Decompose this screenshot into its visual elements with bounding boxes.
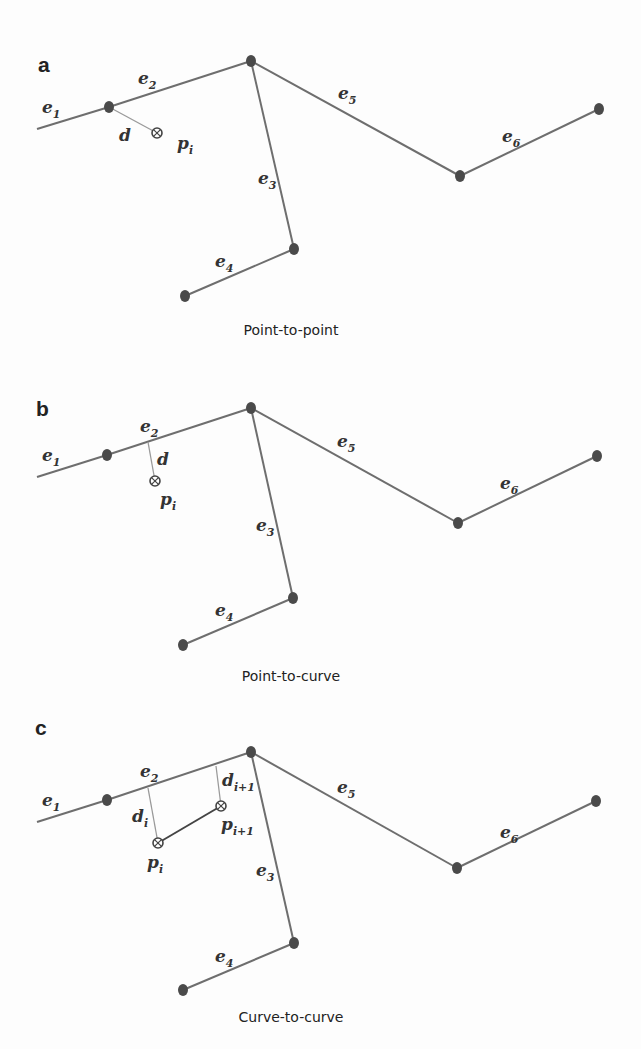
road-node-icon — [452, 862, 462, 874]
panel-label: a — [38, 53, 50, 76]
trajectory-segment — [158, 806, 221, 843]
road-edge-e2 — [107, 408, 251, 455]
road-node-icon — [289, 937, 299, 949]
road-edge-e6 — [457, 801, 596, 868]
gps-point-label: pi — [160, 489, 176, 513]
panel-caption: Point-to-curve — [242, 668, 340, 684]
diagram-canvas: ae1e2e3e4e5e6dpiPoint-to-pointbe1e2e3e4e… — [0, 0, 641, 1049]
panel-b: be1e2e3e4e5e6dpiPoint-to-curve — [36, 397, 602, 684]
panel-label: b — [36, 397, 49, 420]
edge-label: e1 — [42, 790, 60, 814]
road-edge-e6 — [460, 109, 599, 176]
road-node-icon — [594, 103, 604, 115]
road-node-icon — [102, 794, 112, 806]
edge-label: e6 — [500, 473, 519, 497]
road-node-icon — [591, 795, 601, 807]
road-node-icon — [178, 639, 188, 651]
edge-label: e3 — [256, 515, 275, 539]
road-edge-e2 — [109, 61, 251, 107]
road-edge-e4 — [183, 943, 294, 990]
distance-label: di — [132, 806, 148, 830]
distance-label: d — [157, 449, 169, 469]
road-node-icon — [288, 592, 298, 604]
edge-label: e5 — [338, 83, 356, 107]
road-node-icon — [592, 450, 602, 462]
road-edge-e3 — [251, 752, 294, 943]
panel-c: ce1e2e3e4e5e6didi+1pipi+1Curve-to-curve — [35, 716, 601, 1025]
panel-a: ae1e2e3e4e5e6dpiPoint-to-point — [37, 53, 604, 338]
road-node-icon — [246, 402, 256, 414]
edge-label: e2 — [140, 761, 159, 785]
map-matching-figure: ae1e2e3e4e5e6dpiPoint-to-pointbe1e2e3e4e… — [0, 0, 641, 1049]
road-node-icon — [178, 984, 188, 996]
road-edge-e5 — [251, 408, 458, 523]
road-node-icon — [455, 170, 465, 182]
gps-point-label: pi — [147, 852, 163, 876]
road-node-icon — [102, 449, 112, 461]
road-edge-e6 — [458, 456, 597, 523]
road-node-icon — [104, 101, 114, 113]
edge-label: e4 — [215, 251, 233, 275]
edge-label: e1 — [42, 445, 60, 469]
panel-caption: Point-to-point — [244, 322, 339, 338]
edge-label: e3 — [258, 168, 277, 192]
distance-label: di+1 — [222, 770, 255, 794]
edge-label: e3 — [256, 860, 275, 884]
gps-point-label: pi+1 — [221, 814, 254, 838]
edge-label: e6 — [502, 126, 521, 150]
distance-line — [216, 766, 221, 806]
edge-label: e5 — [337, 777, 355, 801]
panel-label: c — [35, 716, 47, 739]
road-node-icon — [180, 290, 190, 302]
road-edge-e4 — [185, 249, 294, 296]
road-node-icon — [453, 517, 463, 529]
road-edge-e5 — [251, 752, 457, 868]
distance-label: d — [119, 125, 131, 145]
road-node-icon — [289, 243, 299, 255]
road-edge-e5 — [251, 61, 460, 176]
edge-label: e2 — [138, 68, 157, 92]
distance-line — [148, 442, 155, 481]
distance-line — [109, 107, 157, 133]
edge-label: e4 — [215, 946, 233, 970]
road-node-icon — [246, 55, 256, 67]
edge-label: e5 — [337, 431, 355, 455]
edge-label: e2 — [140, 416, 159, 440]
gps-point-label: pi — [177, 133, 193, 157]
road-node-icon — [246, 746, 256, 758]
edge-label: e1 — [42, 97, 60, 121]
edge-label: e4 — [215, 600, 233, 624]
road-edge-e3 — [251, 408, 293, 598]
distance-line — [148, 788, 158, 843]
panel-caption: Curve-to-curve — [239, 1009, 344, 1025]
road-edge-e3 — [251, 61, 294, 249]
road-edge-e4 — [183, 598, 293, 645]
